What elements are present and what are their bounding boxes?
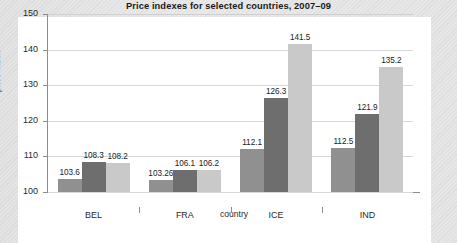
gridline-100 xyxy=(48,192,413,193)
bar-value-label: 103.6 xyxy=(59,168,80,177)
bar-fra-2009[interactable] xyxy=(197,170,221,192)
bar-ind-2007[interactable] xyxy=(331,148,355,193)
bar-fra-2007[interactable] xyxy=(149,180,173,192)
y-tick-label-130: 130 xyxy=(0,79,38,89)
y-tick-label-100: 100 xyxy=(0,186,38,196)
bar-bel-2007[interactable] xyxy=(58,179,82,192)
bar-ice-2007[interactable] xyxy=(240,149,264,192)
y-tick-mark-140 xyxy=(43,50,48,51)
y-tick-mark-100 xyxy=(43,192,48,193)
bar-value-label: 121.9 xyxy=(357,103,378,112)
bar-fra-2008[interactable] xyxy=(173,170,197,192)
bar-value-label: 103.26 xyxy=(148,169,173,178)
bar-value-label: 135.2 xyxy=(381,56,402,65)
x-group-separator xyxy=(322,207,323,213)
x-category-label-fra: FRA xyxy=(176,210,194,220)
bar-value-label: 108.2 xyxy=(107,152,128,161)
gridline-130 xyxy=(48,85,413,86)
bar-value-label: 106.1 xyxy=(175,159,196,168)
y-tick-mark-150 xyxy=(43,14,48,15)
bar-ice-2009[interactable] xyxy=(288,44,312,192)
bar-bel-2009[interactable] xyxy=(106,163,130,192)
bar-value-label: 108.3 xyxy=(83,151,104,160)
y-tick-label-120: 120 xyxy=(0,115,38,125)
x-group-separator xyxy=(231,207,232,213)
x-category-label-ice: ICE xyxy=(269,210,284,220)
gridline-140 xyxy=(48,50,413,51)
bar-ind-2008[interactable] xyxy=(355,114,379,192)
y-tick-label-150: 150 xyxy=(0,8,38,18)
y-tick-mark-120 xyxy=(43,121,48,122)
y-tick-label-140: 140 xyxy=(0,44,38,54)
bar-value-label: 141.5 xyxy=(290,33,311,42)
x-group-separator xyxy=(139,207,140,213)
bar-value-label: 112.1 xyxy=(242,138,262,147)
y-tick-mark-110 xyxy=(43,156,48,157)
plot-area: 103.6108.3108.2BEL103.26106.1106.2FRA112… xyxy=(48,14,413,192)
bar-ind-2009[interactable] xyxy=(379,67,403,192)
chart-title: Price indexes for selected countries, 20… xyxy=(0,1,457,11)
y-tick-mark-130 xyxy=(43,85,48,86)
bar-bel-2008[interactable] xyxy=(82,162,106,192)
y-tick-label-110: 110 xyxy=(0,150,38,160)
x-category-label-ind: IND xyxy=(360,210,376,220)
bar-value-label: 106.2 xyxy=(199,159,220,168)
bar-value-label: 126.3 xyxy=(266,87,287,96)
bar-ice-2008[interactable] xyxy=(264,98,288,192)
bar-value-label: 112.5 xyxy=(333,137,353,146)
x-category-label-bel: BEL xyxy=(85,210,102,220)
gridline-150 xyxy=(48,14,413,15)
